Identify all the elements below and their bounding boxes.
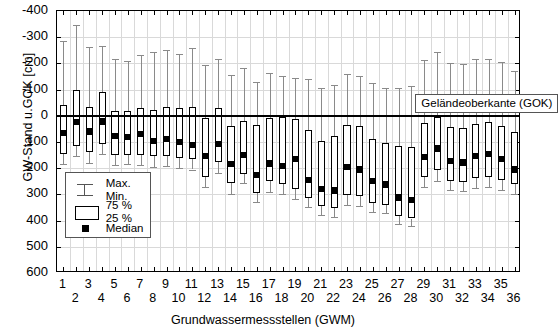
- x-tick-label: 20: [295, 291, 319, 305]
- x-tick-label: 13: [205, 277, 229, 291]
- plot-area: Geländeoberkante (GOK) Max. Min. 75 % 25…: [56, 10, 520, 272]
- x-axis-label: Grundwassermessstellen (GWM): [0, 313, 526, 327]
- x-tick-label: 19: [282, 277, 306, 291]
- reference-line-gok: [57, 115, 519, 117]
- legend-label-median: Median: [106, 222, 144, 235]
- median-icon: [70, 221, 100, 235]
- x-tick-label: 35: [489, 277, 513, 291]
- gok-annotation-label: Geländeoberkante (GOK): [415, 94, 558, 113]
- x-tick-label: 11: [179, 277, 203, 291]
- x-tick-label: 31: [437, 277, 461, 291]
- x-tick-label: 27: [386, 277, 410, 291]
- x-tick-label: 17: [257, 277, 281, 291]
- y-tick-label: 300: [0, 186, 48, 199]
- x-tick-label: 3: [76, 277, 100, 291]
- x-tick-label: 25: [360, 277, 384, 291]
- x-tick-label: 24: [347, 291, 371, 305]
- y-tick-label: -400: [0, 3, 48, 16]
- x-tick-label: 26: [373, 291, 397, 305]
- whisker-icon: [70, 183, 100, 197]
- x-tick-label: 12: [192, 291, 216, 305]
- x-tick-label: 32: [450, 291, 474, 305]
- x-tick-label: 14: [218, 291, 242, 305]
- x-tick-label: 34: [476, 291, 500, 305]
- median-marker: [511, 166, 517, 172]
- x-tick-label: 1: [50, 277, 74, 291]
- x-tick-label: 15: [231, 277, 255, 291]
- y-tick-label: 0: [0, 108, 48, 121]
- x-tick-label: 9: [154, 277, 178, 291]
- legend-entry-median: Median: [70, 221, 144, 235]
- whisker-cap-min: [511, 194, 518, 195]
- x-tick-label: 6: [115, 291, 139, 305]
- chart-legend: Max. Min. 75 % 25 % Median: [65, 172, 151, 238]
- x-tick-label: 16: [244, 291, 268, 305]
- x-tick-label: 5: [102, 277, 126, 291]
- y-tick-label: -300: [0, 29, 48, 42]
- y-tick-label: 200: [0, 160, 48, 173]
- x-tick-label: 33: [463, 277, 487, 291]
- x-tick-label: 7: [128, 277, 152, 291]
- x-tick-label: 8: [141, 291, 165, 305]
- whisker-lower: [515, 184, 516, 194]
- y-tick-label: 400: [0, 213, 48, 226]
- x-tick-label: 21: [308, 277, 332, 291]
- x-tick-label: 22: [321, 291, 345, 305]
- x-tick-label: 23: [334, 277, 358, 291]
- x-tick-label: 36: [502, 291, 526, 305]
- x-tick-label: 18: [270, 291, 294, 305]
- x-tick-label: 30: [424, 291, 448, 305]
- y-tick-label: 600: [0, 265, 48, 278]
- legend-label-q75: 75 %: [106, 199, 132, 212]
- y-tick-label: 100: [0, 134, 48, 147]
- x-tick-label: 2: [63, 291, 87, 305]
- box-icon: [70, 205, 100, 219]
- x-tick-label: 28: [398, 291, 422, 305]
- gok-annotation-text: Geländeoberkante (GOK): [421, 97, 552, 109]
- whisker-cap-max: [511, 71, 518, 72]
- x-tick-label: 29: [411, 277, 435, 291]
- x-tick-label: 10: [166, 291, 190, 305]
- y-tick-label: 500: [0, 239, 48, 252]
- x-tick-label: 4: [89, 291, 113, 305]
- legend-label-max: Max.: [106, 177, 131, 190]
- box-iqr: [511, 132, 518, 184]
- y-tick-label: -200: [0, 55, 48, 68]
- y-tick-label: -100: [0, 82, 48, 95]
